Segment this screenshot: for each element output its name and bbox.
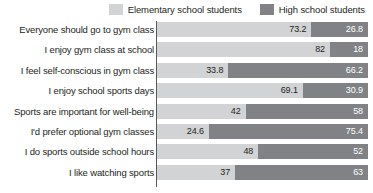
bar-value-high: 63 — [353, 165, 363, 180]
bar-segment-high: 52 — [258, 144, 368, 159]
bar-segment-elementary: 73.2 — [157, 22, 311, 37]
plot-area: Everyone should go to gym class73.226.8I… — [0, 21, 373, 189]
bar-value-high: 26.8 — [346, 22, 363, 37]
category-label: I like watching sports — [69, 165, 154, 180]
bar-value-elementary: 48 — [243, 144, 253, 159]
bar-segment-elementary: 82 — [157, 42, 330, 57]
bar-row: I feel self-conscious in gym class33.866… — [0, 63, 373, 78]
bar-row: Everyone should go to gym class73.226.8 — [0, 22, 373, 37]
bar-segment-elementary: 33.8 — [157, 63, 228, 78]
bar-value-high: 58 — [353, 104, 363, 119]
bar-value-high: 66.2 — [346, 63, 363, 78]
bar-row: Sports are important for well-being4258 — [0, 104, 373, 119]
bar-segment-high: 66.2 — [228, 63, 368, 78]
category-label: I enjoy school sports days — [49, 83, 154, 98]
stacked-bar: 4258 — [157, 104, 368, 119]
chart-legend: Elementary school students High school s… — [0, 2, 373, 17]
legend-swatch-icon-high — [260, 4, 274, 15]
bar-row: I'd prefer optional gym classes24.675.4 — [0, 124, 373, 139]
bar-row: I enjoy school sports days69.130.9 — [0, 83, 373, 98]
bar-value-high: 18 — [353, 42, 363, 57]
bar-value-elementary: 73.2 — [289, 22, 306, 37]
category-label: Sports are important for well-being — [14, 104, 154, 119]
bar-value-high: 30.9 — [346, 83, 363, 98]
bar-segment-elementary: 24.6 — [157, 124, 209, 139]
bar-value-elementary: 24.6 — [187, 124, 204, 139]
stacked-bar: 24.675.4 — [157, 124, 368, 139]
legend-item-high-school-students: High school students — [260, 4, 365, 15]
bar-value-elementary: 33.8 — [206, 63, 223, 78]
bar-segment-elementary: 42 — [157, 104, 246, 119]
bar-segment-high: 75.4 — [209, 124, 368, 139]
category-label: I enjoy gym class at school — [45, 42, 154, 57]
bar-row: I like watching sports3763 — [0, 165, 373, 180]
stacked-bar: 8218 — [157, 42, 368, 57]
stacked-bar: 3763 — [157, 165, 368, 180]
category-label: I do sports outside school hours — [25, 144, 154, 159]
legend-item-elementary-school-students: Elementary school students — [109, 4, 242, 15]
bar-value-elementary: 42 — [231, 104, 241, 119]
category-label: Everyone should go to gym class — [19, 22, 154, 37]
bar-value-high: 52 — [353, 144, 363, 159]
stacked-bar: 73.226.8 — [157, 22, 368, 37]
stacked-bar: 33.866.2 — [157, 63, 368, 78]
bar-segment-elementary: 69.1 — [157, 83, 303, 98]
bar-value-high: 75.4 — [346, 124, 363, 139]
stacked-bar: 69.130.9 — [157, 83, 368, 98]
bar-segment-high: 18 — [330, 42, 368, 57]
bar-row: I do sports outside school hours4852 — [0, 144, 373, 159]
category-label: I feel self-conscious in gym class — [21, 63, 154, 78]
bar-segment-elementary: 48 — [157, 144, 258, 159]
bar-row: I enjoy gym class at school8218 — [0, 42, 373, 57]
legend-label-high: High school students — [279, 4, 365, 15]
bar-segment-high: 63 — [235, 165, 368, 180]
stacked-bar-chart: Elementary school students High school s… — [0, 0, 373, 193]
bar-value-elementary: 69.1 — [281, 83, 298, 98]
bar-segment-elementary: 37 — [157, 165, 235, 180]
bar-segment-high: 30.9 — [303, 83, 368, 98]
bar-segment-high: 58 — [246, 104, 368, 119]
bar-value-elementary: 82 — [315, 42, 325, 57]
bar-segment-high: 26.8 — [311, 22, 368, 37]
category-label: I'd prefer optional gym classes — [31, 124, 154, 139]
legend-label-elementary: Elementary school students — [128, 4, 242, 15]
legend-swatch-icon-elementary — [109, 4, 123, 15]
bar-value-elementary: 37 — [220, 165, 230, 180]
stacked-bar: 4852 — [157, 144, 368, 159]
